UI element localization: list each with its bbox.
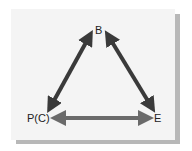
node-b: B xyxy=(95,25,102,36)
node-pc: P(C) xyxy=(27,113,50,124)
arrow-b-pc xyxy=(51,37,89,106)
node-e: E xyxy=(154,113,161,124)
arrows-layer xyxy=(0,0,192,151)
arrow-b-e xyxy=(109,37,151,106)
